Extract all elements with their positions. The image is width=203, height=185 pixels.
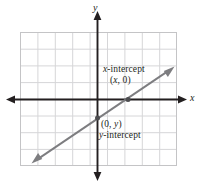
y-axis-label: y	[93, 2, 97, 13]
x-axis-right-arrowhead	[178, 96, 187, 104]
graph-canvas	[0, 0, 203, 185]
x-intercept-coordinate: (x, 0)	[110, 75, 131, 86]
y-intercept-coordinate-close: )	[118, 119, 121, 129]
y-intercept-coordinate-open: (0,	[101, 119, 114, 129]
y-intercept-label-suffix: -intercept	[103, 130, 140, 140]
y-intercept-label: y-intercept	[99, 130, 141, 141]
x-intercept-point	[126, 97, 131, 102]
x-intercept-coordinate-close: , 0)	[118, 75, 131, 85]
x-intercept-label-suffix: -intercept	[107, 64, 144, 74]
y-axis	[94, 11, 102, 181]
x-axis-label: x	[190, 92, 194, 103]
y-intercept-coordinate: (0, y)	[101, 119, 122, 130]
plotted-line	[32, 67, 175, 164]
y-intercept-point	[95, 116, 100, 121]
line-upper-right-arrowhead	[164, 67, 175, 77]
coordinate-plane-figure: x-intercept (x, 0) (0, y) y-intercept x …	[0, 0, 203, 185]
x-intercept-label: x-intercept	[103, 64, 145, 75]
line-lower-left-arrowhead	[32, 153, 43, 163]
y-axis-bottom-arrowhead	[94, 172, 102, 181]
x-axis-left-arrowhead	[6, 96, 15, 104]
